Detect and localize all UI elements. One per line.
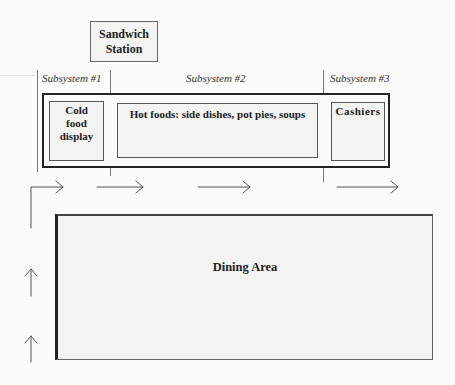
flow-arrows [0, 0, 455, 385]
arrow-right-icon [97, 181, 143, 193]
arrow-right-icon [31, 181, 63, 228]
arrow-right-icon [198, 181, 250, 193]
arrow-up-icon [25, 336, 37, 362]
arrow-right-icon [337, 181, 398, 193]
arrow-up-icon [25, 269, 37, 296]
